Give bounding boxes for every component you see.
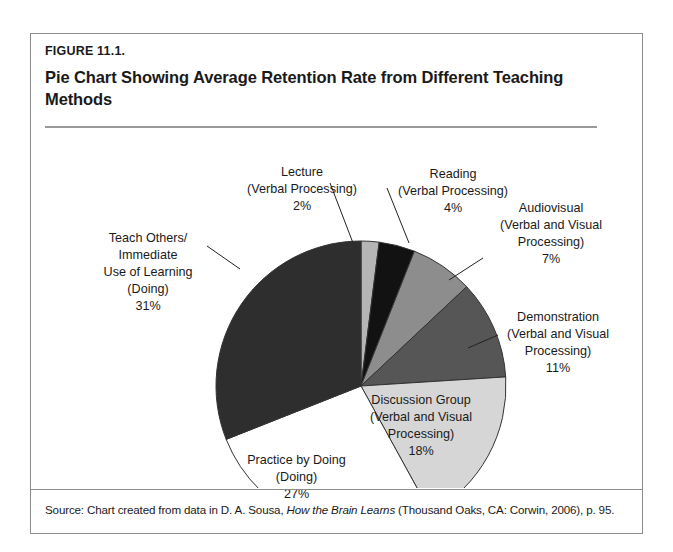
label-line: (Doing): [209, 469, 384, 486]
source-divider: [31, 489, 642, 490]
label-line: Immediate: [73, 247, 223, 264]
figure-number-label: FIGURE 11.1.: [45, 44, 125, 58]
source-prefix: Source: Chart created from data in D. A.…: [45, 503, 287, 516]
pie-chart: Lecture(Verbal Processing)2% Reading(Ver…: [31, 130, 642, 488]
label-line: Teach Others/: [73, 230, 223, 247]
slice-label-audiovisual: Audiovisual(Verbal and VisualProcessing)…: [471, 200, 631, 268]
label-line: Reading: [383, 166, 523, 183]
label-line: Processing): [341, 426, 501, 443]
label-line: Demonstration: [479, 309, 637, 326]
label-line: (Verbal and Visual: [479, 326, 637, 343]
label-line: Lecture: [227, 164, 377, 181]
label-line: 11%: [479, 360, 637, 377]
label-line: 7%: [471, 251, 631, 268]
label-line: (Verbal Processing): [383, 183, 523, 200]
source-book-title: How the Brain Learns: [287, 503, 396, 516]
source-suffix: (Thousand Oaks, CA: Corwin, 2006), p. 95…: [395, 503, 614, 516]
slice-label-demonstration: Demonstration(Verbal and VisualProcessin…: [479, 309, 637, 377]
slice-label-lecture: Lecture(Verbal Processing)2%: [227, 164, 377, 215]
label-line: Use of Learning: [73, 264, 223, 281]
title-divider: [45, 126, 597, 128]
label-line: Processing): [471, 234, 631, 251]
label-line: (Doing): [73, 281, 223, 298]
label-line: Audiovisual: [471, 200, 631, 217]
label-line: 31%: [73, 298, 223, 315]
figure-title: Pie Chart Showing Average Retention Rate…: [45, 67, 590, 111]
slice-label-practice-by-doing: Practice by Doing(Doing)27%: [209, 452, 384, 503]
label-line: (Verbal Processing): [227, 181, 377, 198]
label-line: Discussion Group: [341, 392, 501, 409]
figure-box: FIGURE 11.1. Pie Chart Showing Average R…: [30, 33, 643, 534]
label-line: Processing): [479, 343, 637, 360]
slice-label-discussion-group: Discussion Group(Verbal and VisualProces…: [341, 392, 501, 460]
label-line: (Verbal and Visual: [471, 217, 631, 234]
source-note: Source: Chart created from data in D. A.…: [45, 502, 635, 518]
slice-label-teach-others: Teach Others/ImmediateUse of Learning(Do…: [73, 230, 223, 314]
label-line: (Verbal and Visual: [341, 409, 501, 426]
label-line: Practice by Doing: [209, 452, 384, 469]
label-line: 2%: [227, 198, 377, 215]
